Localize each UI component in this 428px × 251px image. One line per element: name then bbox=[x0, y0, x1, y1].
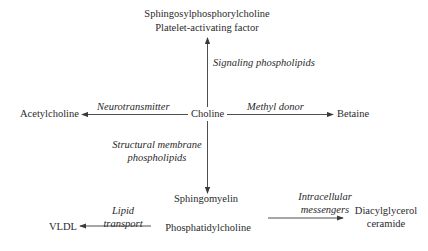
label-signaling-phospholipids: Signaling phospholipids bbox=[213, 57, 315, 69]
label-transport: transport bbox=[103, 218, 142, 230]
node-ceramide: ceramide bbox=[367, 218, 405, 230]
node-sphingomyelin: Sphingomyelin bbox=[174, 193, 238, 205]
label-messengers: messengers bbox=[301, 204, 349, 216]
node-sphingosylphosphorylcholine: Sphingosylphosphorylcholine bbox=[144, 8, 269, 20]
label-phospholipids: phospholipids bbox=[128, 152, 187, 164]
node-diacylglycerol: Diacylglycerol bbox=[355, 205, 417, 217]
label-lipid: Lipid bbox=[112, 205, 134, 217]
node-betaine: Betaine bbox=[337, 108, 369, 120]
node-platelet-activating-factor: Platelet-activating factor bbox=[155, 22, 259, 34]
label-intracellular: Intracellular bbox=[298, 191, 352, 203]
node-vldl: VLDL bbox=[49, 221, 77, 233]
node-choline: Choline bbox=[191, 108, 224, 120]
label-neurotransmitter: Neurotransmitter bbox=[97, 101, 170, 113]
node-acetylcholine: Acetylcholine bbox=[20, 108, 79, 120]
label-structural-membrane: Structural membrane bbox=[112, 139, 202, 151]
label-methyl-donor: Methyl donor bbox=[247, 101, 304, 113]
node-phosphatidylcholine: Phosphatidylcholine bbox=[165, 222, 251, 234]
